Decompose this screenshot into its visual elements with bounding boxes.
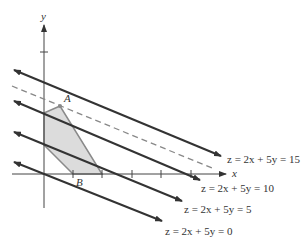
level-line-label-z-10: z = 2x + 5y = 10: [201, 182, 274, 194]
level-line-label-z-5: z = 2x + 5y = 5: [184, 203, 252, 215]
vertex-a-dot: [58, 104, 62, 108]
level-line-z-10: [14, 101, 200, 180]
vertex-a-label: A: [63, 92, 71, 104]
level-lines: [14, 70, 221, 221]
vertex-b-label: B: [76, 176, 83, 188]
lp-level-lines-diagram: x y A B z = 2x + 5y = 15z = 2x + 5y = 10…: [0, 0, 307, 241]
y-axis-label: y: [40, 10, 46, 22]
x-axis-label: x: [231, 167, 237, 179]
level-line-label-z-0: z = 2x + 5y = 0: [165, 225, 233, 237]
level-line-z-5: [14, 132, 182, 201]
level-line-label-z-15: z = 2x + 5y = 15: [227, 153, 300, 165]
dashed-level-line: [12, 86, 212, 168]
level-line-labels: z = 2x + 5y = 15z = 2x + 5y = 10z = 2x +…: [165, 153, 300, 237]
